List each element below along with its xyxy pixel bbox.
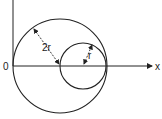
small-radius-label: r [88, 50, 92, 61]
x-axis-label: x [155, 61, 160, 72]
origin-label: 0 [3, 61, 9, 72]
diagram-canvas: 0 x 2r r [0, 0, 162, 119]
big-radius-label: 2r [42, 42, 52, 53]
